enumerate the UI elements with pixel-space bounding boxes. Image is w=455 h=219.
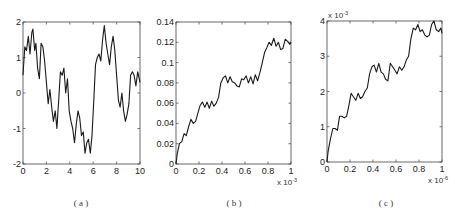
x-tick-label: 0.6 — [390, 164, 403, 174]
x-tick-label: 1 — [439, 164, 444, 174]
y-tick-label: 2 — [320, 87, 325, 97]
y-exponent-label: x 10-3 — [328, 10, 348, 21]
y-tick-label: 0 — [320, 157, 325, 167]
x-tick-label: 0.4 — [367, 164, 380, 174]
x-tick-label: 0.8 — [413, 164, 426, 174]
x-tick-label: 0.2 — [344, 164, 357, 174]
y-tick-label: 1 — [320, 122, 325, 132]
x-exponent-label: x 10-6 — [428, 175, 448, 186]
chart-c-svg: 00.20.40.60.8101234x 10-6x 10-3 — [0, 0, 455, 219]
data-series-line — [327, 21, 442, 162]
x-tick-label: 0 — [324, 164, 329, 174]
y-tick-label: 3 — [320, 51, 325, 61]
y-tick-label: 4 — [320, 16, 325, 26]
caption-c: ( c ) — [366, 198, 406, 208]
axes-frame — [327, 21, 442, 162]
